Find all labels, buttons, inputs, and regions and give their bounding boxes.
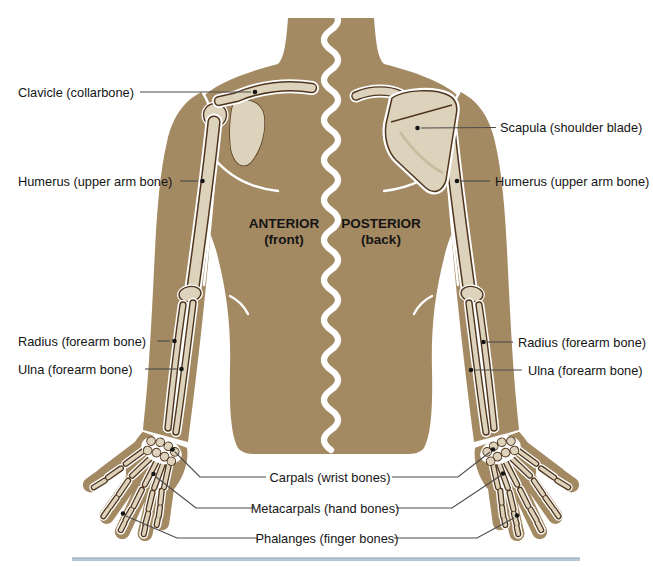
label-humerus-right: Humerus (upper arm bone) xyxy=(495,174,649,189)
bottom-divider-edge xyxy=(72,558,580,559)
label-anterior: ANTERIOR xyxy=(249,216,320,231)
label-anterior-sub: (front) xyxy=(264,232,304,247)
label-phalanges: Phalanges (finger bones) xyxy=(256,531,399,546)
label-posterior-sub: (back) xyxy=(361,232,401,247)
anatomy-figure-page: Clavicle (collarbone) Humerus (upper arm… xyxy=(0,0,653,567)
label-metacarpals: Metacarpals (hand bones) xyxy=(251,501,400,516)
label-ulna-left: Ulna (forearm bone) xyxy=(18,362,133,377)
label-scapula: Scapula (shoulder blade) xyxy=(500,120,642,135)
label-radius-left: Radius (forearm bone) xyxy=(18,334,146,349)
skeletal-diagram: Clavicle (collarbone) Humerus (upper arm… xyxy=(0,0,653,567)
leader-carpals-left xyxy=(175,452,266,477)
leader-scapula xyxy=(421,128,496,129)
label-humerus-left: Humerus (upper arm bone) xyxy=(18,174,172,189)
body-silhouette xyxy=(79,10,583,544)
label-clavicle: Clavicle (collarbone) xyxy=(18,85,134,100)
label-ulna-right: Ulna (forearm bone) xyxy=(528,363,643,378)
label-posterior: POSTERIOR xyxy=(341,216,421,231)
label-carpals: Carpals (wrist bones) xyxy=(270,470,391,485)
label-radius-right: Radius (forearm bone) xyxy=(518,335,646,350)
